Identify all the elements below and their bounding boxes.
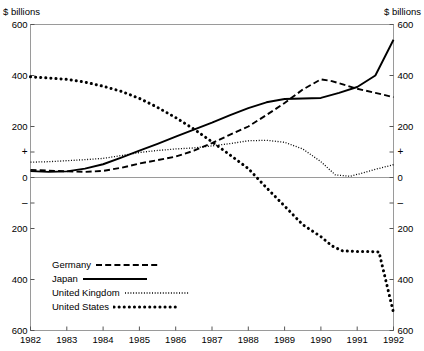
legend-item-united-kingdom[interactable]: United Kingdom <box>52 286 218 300</box>
series-line-united-kingdom <box>31 140 394 176</box>
legend-item-germany[interactable]: Germany <box>52 258 218 272</box>
legend-swatch-dashed <box>95 259 218 271</box>
current-account-line-chart: $ billions $ billions 600400200+0–200400… <box>0 0 424 351</box>
series-line-japan <box>31 40 394 172</box>
legend-item-united-states[interactable]: United States <box>52 300 218 314</box>
legend-item-japan[interactable]: Japan <box>52 272 218 286</box>
legend-swatch-solid <box>82 273 218 285</box>
legend-item-label: United States <box>52 302 109 312</box>
legend-swatch-fine-dotted <box>124 287 218 299</box>
chart-legend: GermanyJapanUnited KingdomUnited States <box>52 258 218 314</box>
legend-item-label: United Kingdom <box>52 288 120 298</box>
legend-item-label: Germany <box>52 260 91 270</box>
legend-swatch-bold-dotted <box>113 301 218 313</box>
legend-item-label: Japan <box>52 274 78 284</box>
